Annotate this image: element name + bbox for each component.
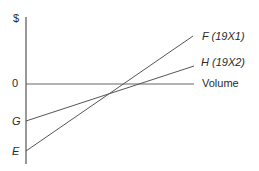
volume-label: Volume — [202, 78, 239, 89]
intercept-g-label: G — [12, 116, 21, 127]
line-h-label: H (19X2) — [201, 57, 245, 68]
line-h — [26, 66, 194, 121]
y-axis-label: $ — [13, 13, 19, 24]
intercept-e-label: E — [12, 146, 19, 157]
zero-label: 0 — [12, 78, 18, 89]
line-f-label: F (19X1) — [202, 31, 245, 42]
